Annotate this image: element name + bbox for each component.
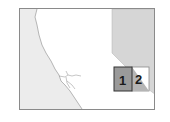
inset-box-1[interactable]: 1 xyxy=(114,67,132,91)
ocean xyxy=(20,9,83,110)
map-frame: 2 1 xyxy=(19,8,155,110)
inset-box-2[interactable]: 2 xyxy=(132,67,149,91)
inset-box-1-label: 1 xyxy=(119,73,126,88)
inset-box-2-label: 2 xyxy=(135,72,142,87)
map-canvas: 2 1 xyxy=(20,9,155,110)
